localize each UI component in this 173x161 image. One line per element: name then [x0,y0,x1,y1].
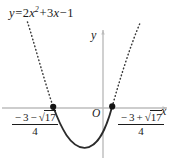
origin-label: O [92,108,100,120]
root-right-numerator: −3+√17 [118,112,164,125]
equation-constant: 1 [67,6,73,20]
parabola-left-dotted-branch [28,22,54,107]
root-left-numerator: −3−√17 [12,112,58,125]
y-axis [101,30,104,158]
root-left-radicand: 17 [44,110,56,123]
root-right-radicand: 17 [150,110,162,123]
root-point-left-marker [50,104,56,110]
equation-plus-sign: + [39,6,47,20]
root-label-right: −3+√17 4 [110,112,172,137]
parabola-figure: y=2x2+3x−1 y x O −3−√17 4 −3+√17 4 [0,0,173,161]
root-label-left: −3−√17 4 [4,112,66,137]
equation-label: y=2x2+3x−1 [9,7,74,20]
y-axis-arrow-icon [101,30,104,35]
root-left-fraction: −3−√17 4 [12,112,58,137]
root-left-leading-sign: − [14,111,22,123]
equation-equals: = [15,6,23,20]
root-left-denominator: 4 [12,125,58,137]
root-left-operator: − [29,111,37,123]
root-point-right-marker [109,103,115,109]
root-right-leading-sign: − [120,111,128,123]
root-left-radical: √17 [38,112,57,123]
root-right-denominator: 4 [118,125,164,137]
equation-lhs: y [9,6,15,20]
x-axis [2,106,167,109]
root-right-fraction: −3+√17 4 [118,112,164,137]
y-axis-label: y [91,29,96,41]
root-right-operator: + [135,111,143,123]
root-right-radical: √17 [144,112,163,123]
parabola-right-dotted-branch [112,22,140,107]
